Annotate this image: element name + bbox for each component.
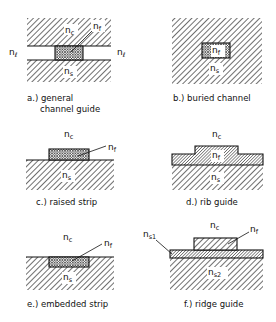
panel-a-general-channel-guide: nc nf ns nℓ nℓ a.) general channel guide [9, 18, 126, 114]
waveguide-figure: nc nf ns nℓ nℓ a.) general channel guide… [0, 0, 276, 322]
panel-e-embedded-strip: nc nf ns e.) embedded strip [26, 232, 114, 309]
label-nl-right: nℓ [117, 47, 126, 59]
film-ridge [194, 238, 237, 250]
label-nf: nf [108, 142, 117, 154]
label-nf: nf [250, 224, 259, 236]
caption-b: b.) buried channel [173, 93, 251, 103]
caption-f: f.) ridge guide [184, 299, 243, 309]
panel-b-buried-channel: nf ns b.) buried channel [172, 18, 262, 103]
label-nc: nc [64, 129, 74, 141]
label-nl-left: nℓ [9, 47, 18, 59]
caption-d: d.) rib guide [186, 197, 238, 207]
substrate1-layer [170, 250, 263, 258]
panel-f-ridge-guide: nc nf ns1 ns2 f.) ridge guide [143, 220, 263, 309]
caption-e: e.) embedded strip [27, 299, 108, 309]
caption-c: c.) raised strip [36, 197, 97, 207]
label-nc: nc [212, 129, 222, 141]
film-strip [49, 257, 89, 267]
caption-a-line2: channel guide [40, 104, 100, 114]
label-nc: nc [63, 232, 73, 244]
label-nc: nc [210, 220, 220, 232]
film-core [55, 46, 83, 60]
label-nf: nf [104, 238, 113, 250]
panel-c-raised-strip: nc nf ns c.) raised strip [26, 129, 117, 207]
label-ns1: ns1 [143, 229, 156, 241]
caption-a: a.) general [27, 93, 73, 103]
panel-d-rib-guide: nc nf ns d.) rib guide [172, 129, 263, 207]
